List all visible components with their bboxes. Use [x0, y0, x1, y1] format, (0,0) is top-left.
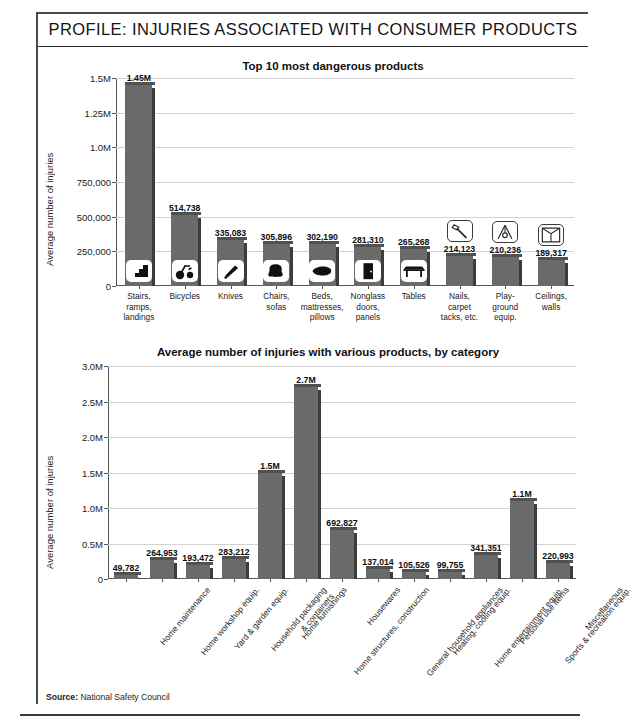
bar-value-label: 264,953	[146, 548, 177, 558]
y-axis-tick	[112, 251, 116, 252]
bar[interactable]	[538, 260, 565, 286]
x-axis-tick	[368, 286, 369, 289]
x-axis-tick	[270, 579, 271, 582]
gridline	[108, 402, 576, 403]
x-axis-tick	[460, 286, 461, 289]
x-axis-tick	[378, 579, 379, 582]
chart-bottom-title: Average number of injuries with various …	[78, 346, 578, 358]
bar-value-label: 302,190	[306, 232, 337, 242]
y-axis-tick-label: 250,000	[77, 246, 116, 257]
x-axis-tick	[486, 579, 487, 582]
bar[interactable]	[150, 560, 174, 579]
chart-bottom-ylabel: Average number of injuries	[44, 404, 55, 569]
gridline	[116, 182, 574, 183]
swing-set-icon	[492, 221, 518, 243]
bar-value-label: 137,014	[362, 557, 393, 567]
frame-bottom-border	[20, 714, 580, 716]
x-axis-tick	[322, 286, 323, 289]
bar-value-label: 341,351	[470, 543, 501, 553]
source-label: Source:	[46, 692, 78, 702]
stairs-icon	[126, 260, 152, 282]
x-axis-tick	[306, 579, 307, 582]
chair-icon	[263, 260, 289, 282]
x-axis-tick	[551, 286, 552, 289]
frame-top-border	[36, 12, 588, 14]
chart-bottom-plot-area: 00.5M1.0M1.5M2.0M2.5M3.0M49,782Home main…	[108, 366, 576, 579]
x-axis-category-label: Home maintenance	[158, 585, 212, 647]
x-axis-tick	[522, 579, 523, 582]
hammer-nail-icon	[447, 220, 473, 242]
bar-value-label: 514,738	[169, 203, 200, 213]
bar-value-label: 105,526	[398, 560, 429, 570]
gridline	[108, 366, 576, 367]
page-title: PROFILE: INJURIES ASSOCIATED WITH CONSUM…	[48, 20, 578, 39]
x-axis-tick	[342, 579, 343, 582]
x-axis-tick	[126, 579, 127, 582]
table-icon	[401, 260, 427, 282]
y-axis-tick	[112, 113, 116, 114]
y-axis-tick	[104, 579, 108, 580]
gridline	[108, 508, 576, 509]
bar[interactable]	[258, 473, 282, 580]
bar-value-label: 1.45M	[127, 73, 151, 83]
bed-pillow-icon	[309, 260, 335, 282]
bar[interactable]	[366, 569, 390, 579]
y-axis-tick	[112, 217, 116, 218]
bar-value-label: 189,317	[535, 248, 566, 258]
y-axis-tick-label: 500,000	[77, 211, 116, 222]
source-value: National Safety Council	[80, 692, 169, 702]
bar-value-label: 193,472	[182, 553, 213, 563]
chart-top-plot-area: 0250,000500,000750,0001.0M1.25M1.5M1.45M…	[116, 78, 574, 286]
gridline	[116, 113, 574, 114]
bar[interactable]	[402, 572, 426, 579]
bar[interactable]	[474, 555, 498, 579]
y-axis-tick	[104, 437, 108, 438]
y-axis-tick	[104, 508, 108, 509]
door-icon	[355, 260, 381, 282]
title-divider	[38, 46, 588, 47]
x-axis-category-label: Heating, cooling equip.	[450, 585, 512, 657]
bar-value-label: 335,083	[215, 228, 246, 238]
bar-value-label: 210,236	[490, 245, 521, 255]
y-axis-tick	[112, 78, 116, 79]
y-axis-tick	[104, 402, 108, 403]
source-note: Source: National Safety Council	[46, 692, 170, 702]
bar-value-label: 283,212	[218, 547, 249, 557]
bar[interactable]	[546, 563, 570, 579]
y-axis-tick	[112, 147, 116, 148]
x-axis-tick	[276, 286, 277, 289]
y-axis-tick	[112, 182, 116, 183]
tricycle-icon	[172, 260, 198, 282]
bar-value-label: 214,123	[444, 244, 475, 254]
x-axis-category-label: Sports & recreation equip.	[563, 585, 633, 666]
bar[interactable]	[294, 387, 318, 579]
knife-icon	[218, 260, 244, 282]
x-axis-category-label: Personal use items	[517, 585, 570, 646]
y-axis-tick	[112, 286, 116, 287]
chart-top-ylabel: Average number of injuries	[44, 101, 55, 266]
x-axis-tick	[198, 579, 199, 582]
bar[interactable]	[510, 501, 534, 579]
x-axis-tick	[414, 579, 415, 582]
bar[interactable]	[330, 530, 354, 579]
bar[interactable]	[222, 559, 246, 579]
bar[interactable]	[492, 257, 519, 286]
bar[interactable]	[446, 256, 473, 286]
bar-value-label: 305,896	[261, 232, 292, 242]
gridline	[116, 78, 574, 79]
chart-top-title: Top 10 most dangerous products	[98, 60, 568, 72]
bar-value-label: 99,755	[437, 560, 464, 570]
bar-value-label: 281,310	[352, 235, 383, 245]
y-axis-tick	[104, 544, 108, 545]
bar[interactable]	[438, 572, 462, 579]
bar[interactable]	[186, 565, 210, 579]
y-axis-tick-label: 750,000	[77, 177, 116, 188]
bar[interactable]	[125, 85, 152, 286]
gridline	[108, 473, 576, 474]
x-axis-category-label: Ceilings,walls	[524, 291, 578, 312]
chart-by-category: Average number of injuries with various …	[38, 344, 588, 684]
bar-value-label: 220,993	[542, 551, 573, 561]
x-axis-tick	[414, 286, 415, 289]
y-axis-tick	[104, 366, 108, 367]
